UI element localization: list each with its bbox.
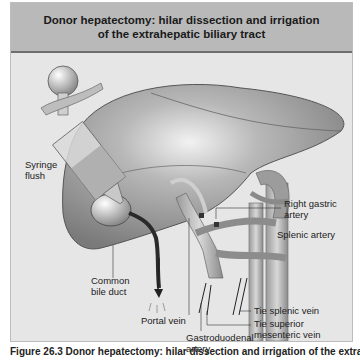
label-tie-splenic-vein: Tie splenic vein [254, 305, 319, 316]
clip [199, 213, 204, 218]
figure-frame: Donor hepatectomy: hilar dissection and … [10, 2, 353, 342]
liver-diagram-graphic [11, 53, 352, 341]
label-line: Gastroduodenal [186, 332, 254, 343]
label-line: bile duct [91, 286, 130, 297]
figure-header: Donor hepatectomy: hilar dissection and … [11, 3, 352, 53]
clip [214, 222, 219, 227]
label-syringe-flush: Syringe flush [25, 159, 57, 181]
figure-title-line-1: Donor hepatectomy: hilar dissection and … [43, 13, 319, 27]
label-line: Syringe [25, 159, 57, 170]
label-right-gastric-artery: Right gastric artery [284, 198, 337, 220]
label-line: Common [91, 275, 130, 286]
label-common-bile-duct: Common bile duct [91, 275, 130, 297]
label-line: Tie superior [254, 318, 321, 329]
figure-caption: Figure 26.3 Donor hepatectomy: hilar dis… [10, 346, 360, 357]
label-line: flush [25, 170, 57, 181]
figure-title-line-2: of the extrahepatic biliary tract [98, 27, 265, 41]
label-portal-vein: Portal vein [141, 315, 186, 326]
label-tie-superior-mesenteric-vein: Tie superior mesenteric vein [254, 318, 321, 340]
label-line: mesenteric vein [254, 329, 321, 340]
label-line: artery [284, 209, 337, 220]
anatomy-illustration: Syringe flush Common bile duct Portal ve… [11, 53, 352, 341]
label-line: Right gastric [284, 198, 337, 209]
label-splenic-artery: Splenic artery [277, 229, 335, 240]
